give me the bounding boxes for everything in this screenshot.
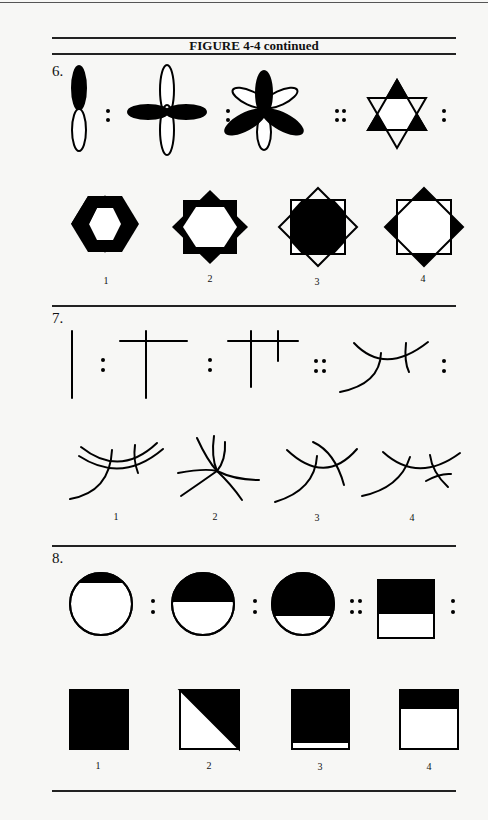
q6-stem-3 bbox=[222, 71, 306, 150]
q7-stem-2 bbox=[120, 331, 187, 398]
q7-option-1 bbox=[70, 443, 163, 499]
q8-stem-2 bbox=[170, 572, 236, 635]
q8-stem-3 bbox=[270, 572, 336, 635]
figure-drawings bbox=[0, 0, 488, 820]
q8-option-2 bbox=[180, 690, 239, 749]
q8-stem-4 bbox=[378, 580, 434, 638]
q6-option-3 bbox=[279, 188, 357, 266]
q6-stem-4 bbox=[368, 80, 426, 148]
q8-option-1 bbox=[70, 690, 128, 749]
q8-stem-1 bbox=[68, 572, 134, 635]
q6-option-1 bbox=[71, 195, 139, 253]
q6-stem-1 bbox=[72, 66, 86, 151]
q7-stem-4 bbox=[340, 342, 428, 392]
q6-option-2 bbox=[172, 190, 248, 264]
q7-option-4 bbox=[362, 452, 460, 496]
q7-option-2 bbox=[178, 436, 259, 500]
q6-option-4 bbox=[385, 188, 463, 266]
q7-option-3 bbox=[275, 442, 357, 502]
q8-option-4 bbox=[400, 690, 458, 749]
q8-option-3 bbox=[292, 690, 349, 749]
q7-stem-3 bbox=[228, 331, 298, 387]
q6-stem-2 bbox=[128, 65, 206, 155]
